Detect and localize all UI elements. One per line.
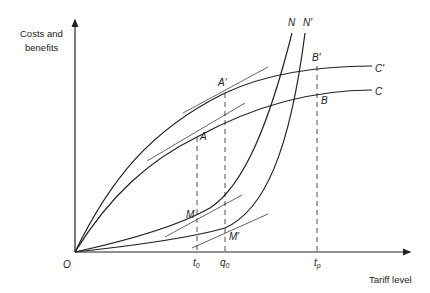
label-m-prime: M′ xyxy=(229,231,240,242)
tick-q0: q0 xyxy=(220,257,230,269)
origin-label: O xyxy=(63,259,71,270)
y-axis-label-line1: Costs and xyxy=(20,28,63,39)
label-a: A xyxy=(199,131,207,142)
x-axis-label: Tariff level xyxy=(369,274,412,285)
label-a-prime: A′ xyxy=(217,77,228,88)
label-c-prime: C′ xyxy=(375,63,385,74)
label-n: N xyxy=(288,17,296,28)
label-b-prime: B′ xyxy=(312,52,322,63)
tangent-a-prime xyxy=(183,67,268,113)
y-axis-label-line2: benefits xyxy=(25,42,59,53)
curve-n xyxy=(75,33,292,252)
label-n-prime: N′ xyxy=(303,17,313,28)
label-b: B xyxy=(321,95,328,106)
tick-t0: t0 xyxy=(193,257,200,269)
tick-tp: tp xyxy=(314,257,321,270)
tangent-a xyxy=(147,103,245,161)
curve-c xyxy=(75,90,372,252)
tariff-diagram: Costs and benefits Tariff level O N N′ C… xyxy=(0,0,430,293)
curve-c-prime xyxy=(75,66,372,252)
label-c: C xyxy=(375,86,383,97)
label-m: M xyxy=(186,209,195,220)
